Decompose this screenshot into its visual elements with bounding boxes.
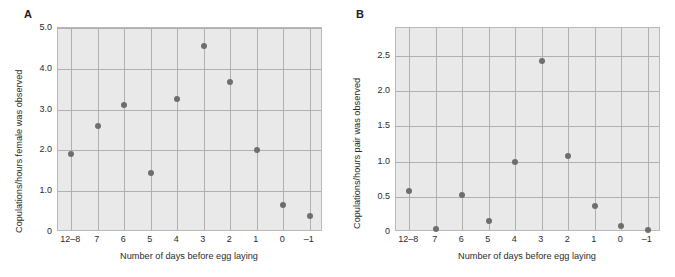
gridline-vertical (151, 28, 152, 230)
data-point (68, 151, 74, 157)
x-tick-label: 7 (94, 235, 99, 244)
x-tick-label: –1 (642, 235, 652, 244)
y-tick-label: 1.5 (377, 121, 390, 130)
panel-b-y-axis-label: Copulations/hours pair was observed (352, 78, 362, 229)
data-point (486, 218, 492, 224)
gridline-vertical (71, 28, 72, 230)
panel-b-x-tick-labels: 12–876543210–1 (395, 235, 660, 249)
figure-container: A Copulations/hours female was observed … (0, 0, 675, 277)
data-point (512, 159, 518, 165)
gridline-vertical (409, 28, 410, 230)
x-tick-label: 5 (147, 235, 152, 244)
y-tick-label: 2.5 (377, 51, 390, 60)
y-tick-label: 2.0 (39, 145, 52, 154)
panel-b-x-axis-label: Number of days before egg laying (458, 251, 596, 261)
gridline-vertical (310, 28, 311, 230)
x-tick-label: 2 (565, 235, 570, 244)
x-tick-label: 6 (459, 235, 464, 244)
panel-a-x-tick-labels: 12–876543210–1 (57, 235, 322, 249)
data-point (592, 203, 598, 209)
data-point (201, 43, 207, 49)
gridline-vertical (230, 28, 231, 230)
panel-a-y-axis-label: Copulations/hours female was observed (14, 70, 24, 233)
panel-b: B Copulations/hours pair was observed 00… (338, 0, 675, 277)
data-point (539, 58, 545, 64)
data-point (459, 192, 465, 198)
gridline-vertical (283, 28, 284, 230)
gridline-vertical (177, 28, 178, 230)
x-tick-label: 12–8 (398, 235, 418, 244)
gridline-vertical (98, 28, 99, 230)
y-tick-label: 4.0 (39, 63, 52, 72)
x-tick-label: 12–8 (60, 235, 80, 244)
gridline-vertical (568, 28, 569, 230)
x-tick-label: 4 (174, 235, 179, 244)
panel-a-x-axis-label: Number of days before egg laying (120, 251, 258, 261)
gridline-vertical (436, 28, 437, 230)
panel-b-letter: B (356, 8, 364, 20)
x-tick-label: 1 (591, 235, 596, 244)
x-tick-label: 7 (432, 235, 437, 244)
gridline-vertical (515, 28, 516, 230)
y-tick-label: 2.0 (377, 86, 390, 95)
x-tick-label: 6 (121, 235, 126, 244)
y-tick-label: 1.0 (39, 186, 52, 195)
data-point (148, 170, 154, 176)
data-point (121, 102, 127, 108)
x-tick-label: 2 (227, 235, 232, 244)
data-point (307, 213, 313, 219)
gridline-vertical (204, 28, 205, 230)
data-point (280, 202, 286, 208)
data-point (227, 79, 233, 85)
x-tick-label: 4 (512, 235, 517, 244)
x-tick-label: 5 (485, 235, 490, 244)
data-point (645, 227, 651, 233)
x-tick-label: 0 (618, 235, 623, 244)
data-point (174, 96, 180, 102)
y-tick-label: 0.5 (377, 191, 390, 200)
panel-b-y-tick-labels: 00.51.01.52.02.5 (364, 0, 390, 277)
x-tick-label: 0 (280, 235, 285, 244)
y-tick-label: 0 (47, 227, 52, 236)
x-tick-label: 1 (253, 235, 258, 244)
gridline-vertical (257, 28, 258, 230)
gridline-vertical (124, 28, 125, 230)
gridline-vertical (462, 28, 463, 230)
x-tick-label: –1 (304, 235, 314, 244)
data-point (618, 223, 624, 229)
data-point (433, 226, 439, 232)
panel-a: A Copulations/hours female was observed … (0, 0, 337, 277)
x-tick-label: 3 (538, 235, 543, 244)
y-tick-label: 5.0 (39, 23, 52, 32)
gridline-vertical (648, 28, 649, 230)
panel-a-y-tick-labels: 01.02.03.04.05.0 (26, 0, 52, 277)
data-point (406, 188, 412, 194)
x-tick-label: 3 (200, 235, 205, 244)
data-point (95, 123, 101, 129)
gridline-vertical (489, 28, 490, 230)
gridline-vertical (621, 28, 622, 230)
panel-b-plot-area (395, 27, 660, 231)
y-tick-label: 0 (385, 227, 390, 236)
y-tick-label: 1.0 (377, 156, 390, 165)
gridline-vertical (595, 28, 596, 230)
data-point (565, 153, 571, 159)
y-tick-label: 3.0 (39, 104, 52, 113)
data-point (254, 147, 260, 153)
panel-a-plot-area (57, 27, 322, 231)
